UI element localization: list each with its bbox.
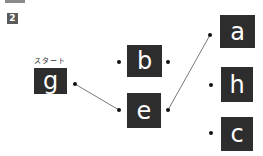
node-h-letter: h [229, 73, 244, 97]
node-c-left-dot[interactable] [209, 131, 213, 135]
node-e-right-dot[interactable] [166, 108, 170, 112]
node-g: g [34, 68, 67, 94]
node-g-letter: g [43, 69, 58, 93]
node-b-left-dot[interactable] [117, 60, 121, 64]
node-e: e [127, 93, 161, 128]
node-b-right-dot[interactable] [166, 60, 170, 64]
node-h: h [221, 67, 253, 102]
node-c-letter: c [230, 122, 243, 146]
node-a-letter: a [230, 20, 245, 44]
line-e-to-a [168, 35, 210, 110]
node-a-left-dot[interactable] [208, 33, 212, 37]
node-g-right-dot[interactable] [73, 82, 77, 86]
node-b: b [127, 45, 162, 77]
node-c: c [221, 117, 253, 151]
line-g-to-e [75, 84, 119, 110]
node-e-left-dot[interactable] [117, 108, 121, 112]
node-b-letter: b [137, 49, 152, 73]
node-h-left-dot[interactable] [209, 83, 213, 87]
start-label: スタート [34, 55, 66, 65]
node-a: a [220, 15, 255, 48]
node-e-letter: e [137, 99, 152, 123]
